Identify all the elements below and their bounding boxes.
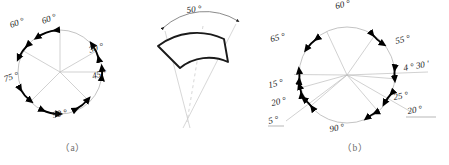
angle-dimension-arc	[163, 12, 238, 28]
radial-lines-a	[24, 30, 102, 102]
arc-marker	[307, 39, 318, 50]
sector-label-b-2: 4 ° 30 ′	[403, 58, 431, 73]
caption-b: （b）	[342, 140, 368, 154]
label-leaders-b	[268, 117, 436, 126]
sector-label-b-3: 25 °	[393, 89, 410, 101]
radial-line-20b	[301, 75, 347, 88]
sector-label-b-5: 90 °	[329, 121, 346, 133]
figure-page: 60 ° 30 ° 45 ° 90 ° 75 ° 60 ° 50 °	[0, 0, 449, 165]
arc-marker	[19, 45, 28, 58]
radial-line-55	[347, 36, 375, 75]
radial-line	[60, 72, 90, 102]
diagram-b: 60 ° 55 ° 4 ° 30 ′ 25 ° 20 ° 90 ° 5 ° 20…	[268, 0, 449, 140]
sector-label-a-1: 30 °	[87, 41, 106, 56]
diagram-middle-svg: 50 °	[150, 0, 270, 140]
sector-label-b-6: 5 °	[267, 114, 280, 126]
radial-line-90	[311, 75, 348, 106]
arc-marker	[37, 30, 56, 37]
sector-label-b-4: 20 °	[407, 103, 424, 115]
sector-label-b-9: 65 °	[269, 31, 286, 44]
sector-label-a-3: 90 °	[51, 107, 68, 120]
arc-marker	[367, 113, 376, 119]
arc-marker	[20, 89, 30, 101]
radial-line-20a	[347, 75, 378, 112]
angle-label-50: 50 °	[186, 3, 202, 15]
sector-label-b-7: 20 °	[270, 95, 287, 108]
sector-label-b-0: 60 °	[334, 0, 351, 11]
radial-line	[24, 51, 60, 72]
arc-markers-b	[299, 34, 395, 118]
diagram-b-svg: 60 ° 55 ° 4 ° 30 ′ 25 ° 20 ° 90 ° 5 ° 20…	[268, 0, 449, 140]
sector-label-a-2: 45 °	[91, 67, 108, 81]
radial-line-5	[286, 75, 347, 121]
radial-line-0	[347, 72, 428, 75]
arc-marker	[385, 93, 393, 103]
diagram-a: 60 ° 30 ° 45 ° 90 ° 75 ° 60 °	[0, 0, 150, 140]
radial-line-65	[327, 32, 347, 76]
sector-label-b-1: 55 °	[394, 33, 411, 46]
radial-line	[30, 72, 60, 102]
sector-label-b-8: 15 °	[267, 77, 284, 90]
radial-line-4-30	[347, 75, 395, 79]
diagram-a-svg: 60 ° 30 ° 45 ° 90 ° 75 ° 60 °	[0, 0, 150, 140]
sector-label-a-4: 75 °	[3, 70, 21, 84]
sector-label-a-5: 60 °	[8, 15, 26, 30]
radial-line-15	[294, 75, 347, 76]
caption-a: （a）	[60, 140, 86, 154]
annular-sector-shape	[158, 33, 228, 68]
arc-marker	[372, 34, 383, 44]
diagram-middle-sector: 50 °	[150, 0, 270, 140]
sector-label-a-0: 60 °	[40, 11, 58, 26]
